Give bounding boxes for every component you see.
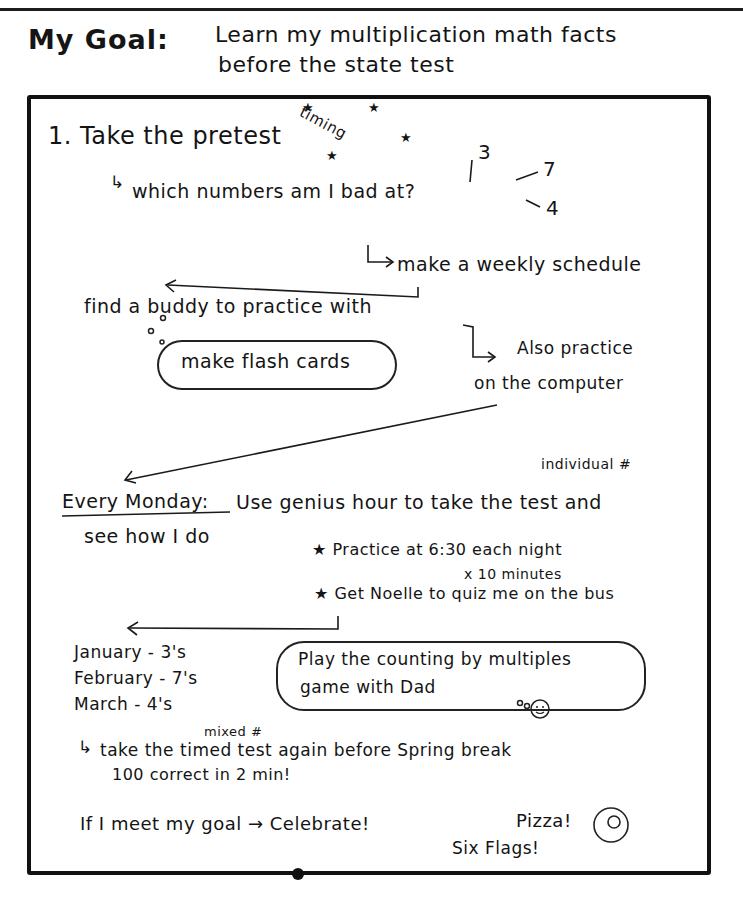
retest-line1: take the timed test again before Spring … — [100, 740, 512, 760]
monday-text-line2: see how I do — [84, 525, 210, 547]
weekly-schedule-text: make a weekly schedule — [397, 253, 642, 275]
practice-bullet: ★ Practice at 6:30 each night — [312, 540, 562, 559]
game-cloud-line2: game with Dad — [300, 677, 436, 697]
mixed-note: mixed # — [204, 724, 262, 739]
l-arrow-icon: ↳ — [78, 737, 93, 757]
practice-bullet-sub: x 10 minutes — [464, 566, 562, 582]
month-february: February - 7's — [74, 668, 198, 688]
retest-line2: 100 correct in 2 min! — [112, 765, 291, 784]
buddy-text: find a buddy to practice with — [84, 295, 372, 317]
month-january: January - 3's — [74, 642, 186, 662]
monday-text-line1: Use genius hour to take the test and — [236, 491, 602, 513]
individual-note: individual # — [541, 456, 631, 472]
noelle-bullet: ★ Get Noelle to quiz me on the bus — [314, 584, 614, 603]
game-cloud-line1: Play the counting by multiples — [298, 649, 571, 669]
celebrate-text: If I meet my goal → Celebrate! — [80, 813, 370, 834]
pizza-text: Pizza! — [516, 810, 572, 831]
every-monday-label: Every Monday: — [62, 490, 209, 512]
computer-text-line1: Also practice — [517, 338, 633, 358]
six-flags-text: Six Flags! — [452, 838, 539, 858]
flash-cards-text: make flash cards — [181, 350, 350, 372]
computer-text-line2: on the computer — [474, 373, 623, 393]
month-march: March - 4's — [74, 694, 173, 714]
